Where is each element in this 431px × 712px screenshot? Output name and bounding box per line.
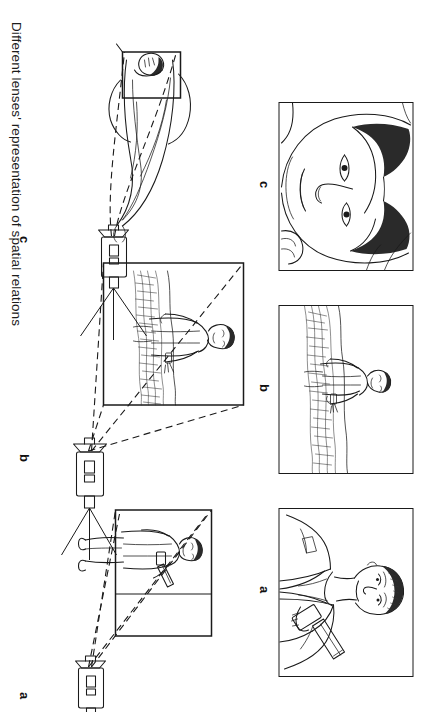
figure-canvas: a [0,0,431,712]
lens-diagram-a-artwork [31,492,221,697]
lens-diagram-a [31,492,221,697]
lens-diagram-b-letter: b [16,454,31,462]
lens-diagram-a-letter: a [16,692,31,699]
camera-icon [98,225,128,288]
figure-caption: Different lenses' representation of spat… [8,22,23,326]
lens-diagram-b-artwork [21,255,251,485]
lens-diagram-c-artwork [31,40,206,280]
lens-diagram-c [31,40,206,280]
lens-diagram-b [21,255,251,485]
diagram-row: a [0,0,431,712]
